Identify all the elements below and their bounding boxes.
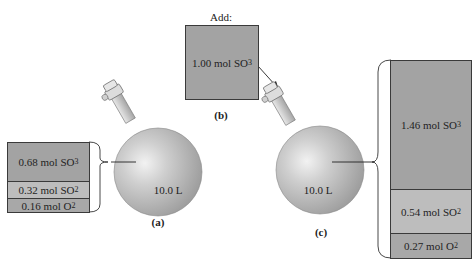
- component-so3-b: 1.00 mol SO3: [186, 26, 258, 99]
- component-o2-c: 0.27 mol O2: [391, 233, 471, 258]
- flask-a-volume: 10.0 L: [154, 184, 183, 196]
- brace-c: [372, 60, 391, 258]
- component-so2-c: 0.54 mol SO2: [391, 189, 471, 233]
- panel-c-label: (c): [315, 226, 327, 238]
- component-o2-a: 0.16 mol O2: [8, 198, 89, 212]
- brace-a: [89, 142, 108, 212]
- component-so3-c: 1.46 mol SO3: [391, 61, 471, 189]
- panel-b-label: (b): [214, 109, 227, 121]
- panel-a-label: (a): [152, 216, 165, 228]
- mixture-stack-c: 1.46 mol SO3 0.54 mol SO2 0.27 mol O2: [390, 60, 472, 259]
- added-box-b: 1.00 mol SO3: [185, 25, 259, 100]
- mixture-stack-a: 0.68 mol SO3 0.32 mol SO2 0.16 mol O2: [7, 142, 90, 213]
- component-so3-a: 0.68 mol SO3: [8, 143, 89, 181]
- component-so2-a: 0.32 mol SO2: [8, 181, 89, 198]
- flask-c-volume: 10.0 L: [304, 184, 333, 196]
- add-heading: Add:: [210, 11, 232, 23]
